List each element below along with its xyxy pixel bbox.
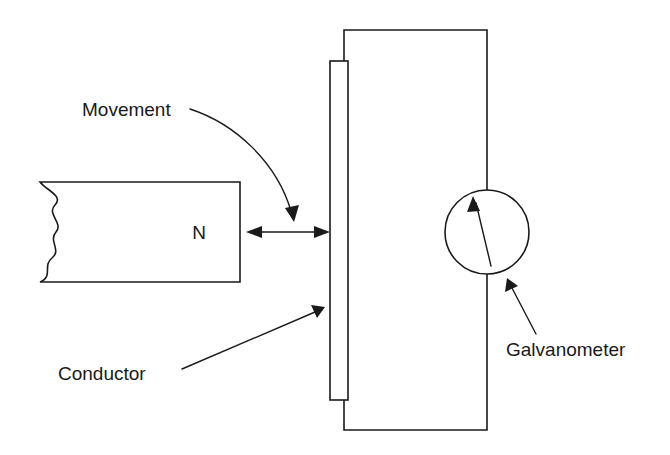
diagram-canvas: N Movement Conductor Galvanometer [0,0,670,455]
magnet-pole-label: N [192,222,206,243]
conductor-pointer-line [182,312,315,369]
magnet-body[interactable] [40,182,240,282]
galvanometer-label: Galvanometer [506,339,626,360]
conductor-bar[interactable] [330,61,348,400]
galvanometer-callout: Galvanometer [505,278,626,360]
galvanometer-pointer-head [505,278,518,292]
motion-arrow-head-left [246,226,262,238]
induction-diagram: N Movement Conductor Galvanometer [0,0,670,455]
motion-arrow-head-right [314,226,330,238]
top-wire [344,30,487,190]
conductor-callout: Conductor [58,305,325,384]
conductor-bar-rect[interactable] [330,61,348,400]
movement-pointer-head [285,205,299,222]
movement-label: Movement [82,99,171,120]
bottom-wire [344,274,487,430]
galvanometer-dial[interactable] [445,190,529,274]
bar-magnet[interactable]: N [40,182,240,282]
conductor-label: Conductor [58,363,146,384]
motion-arrow [246,226,330,238]
galvanometer[interactable] [445,190,529,274]
galvanometer-pointer-line [512,288,536,334]
conductor-pointer-head [311,305,325,318]
